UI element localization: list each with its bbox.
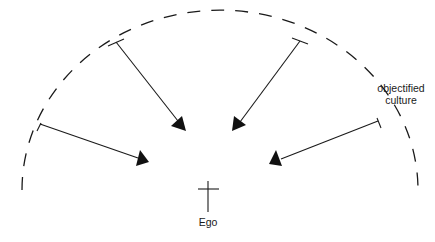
culture-label-line1: objectified <box>368 82 434 94</box>
arrow-upper-right <box>232 38 308 131</box>
arrow-upper-left <box>108 39 186 131</box>
arrow-lower-right <box>269 118 381 166</box>
objectified-culture-label: objectified culture <box>368 82 434 106</box>
culture-label-line2: culture <box>368 94 434 106</box>
arrow-lower-left <box>37 123 149 166</box>
diagram-canvas <box>0 0 435 242</box>
ego-cross-icon <box>198 181 219 212</box>
dashed-boundary-arc <box>22 10 418 190</box>
ego-label: Ego <box>193 216 223 228</box>
